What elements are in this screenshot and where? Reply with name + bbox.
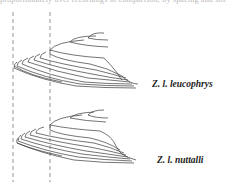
species-label-leucophrys: Z. l. leucophrys bbox=[152, 79, 213, 89]
dashed-guide-lines bbox=[13, 12, 50, 182]
species-label-nuttalli: Z. l. nuttalli bbox=[157, 155, 203, 165]
contour-upper-leucophrys bbox=[14, 33, 138, 88]
contour-lower-nuttalli bbox=[17, 110, 136, 163]
